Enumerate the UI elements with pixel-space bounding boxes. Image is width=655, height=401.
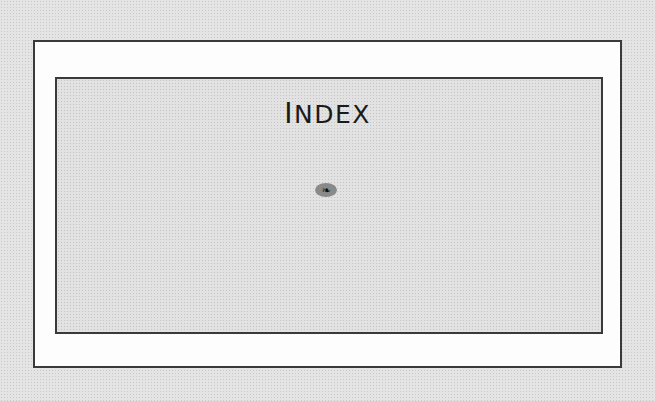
page-title: INDEX — [0, 97, 655, 130]
ornament-glyph: ❧ — [321, 185, 330, 196]
title-initial: I — [284, 97, 294, 130]
title-rest: NDEX — [294, 100, 371, 129]
fleuron-ornament-icon: ❧ — [315, 183, 337, 197]
